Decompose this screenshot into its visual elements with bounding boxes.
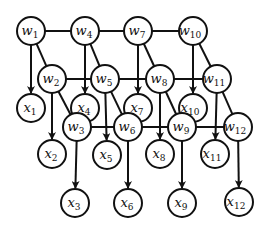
graphical-model-diagram: w1w4w7w10w2w5w8w11x1x4x7x10w3w6w9w12x2x5… xyxy=(0,0,266,230)
node-w12: w12 xyxy=(224,113,252,141)
edge-w11-w12 xyxy=(223,92,233,114)
node-x11: x11 xyxy=(201,140,229,168)
node-x8: x8 xyxy=(146,140,174,168)
edge-w5-w6 xyxy=(111,92,122,115)
node-x6: x6 xyxy=(114,189,142,217)
edge-w3-x3 xyxy=(75,141,76,188)
node-w4: w4 xyxy=(71,17,99,45)
edge-w7-w8 xyxy=(144,44,154,67)
edge-w11-x11 xyxy=(215,93,216,139)
edge-w4-w5 xyxy=(90,44,99,66)
node-w6: w6 xyxy=(114,113,142,141)
node-w3: w3 xyxy=(63,113,91,141)
node-x12: x12 xyxy=(225,188,253,216)
edge-w2-w3 xyxy=(58,91,70,114)
node-x2: x2 xyxy=(38,140,66,168)
node-x5: x5 xyxy=(93,141,121,169)
node-w7: w7 xyxy=(124,17,152,45)
node-w11: w11 xyxy=(203,65,231,93)
node-x3: x3 xyxy=(61,189,89,217)
node-w1: w1 xyxy=(17,17,45,45)
edge-w5-x5 xyxy=(105,93,106,140)
node-w9: w9 xyxy=(168,113,196,141)
node-w5: w5 xyxy=(91,65,119,93)
edge-w8-w9 xyxy=(166,92,176,115)
node-w2: w2 xyxy=(38,65,66,93)
node-x1: x1 xyxy=(17,94,45,122)
node-w10: w10 xyxy=(179,17,207,45)
edge-w1-w2 xyxy=(37,44,47,66)
node-w8: w8 xyxy=(146,65,174,93)
node-x9: x9 xyxy=(168,189,196,217)
edge-w12-x12 xyxy=(238,141,239,187)
edge-w10-w11 xyxy=(199,44,210,67)
